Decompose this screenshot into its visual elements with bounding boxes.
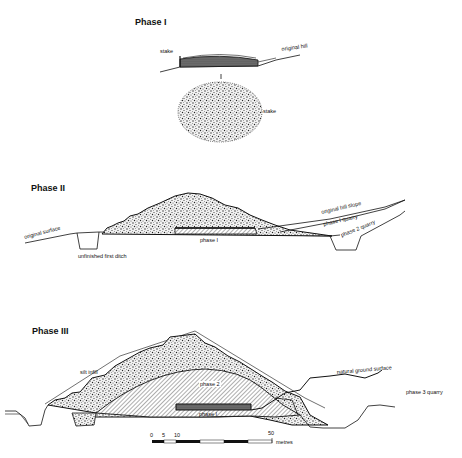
phase3-phase2-label: phase 2 (199, 381, 221, 387)
section-drawings (0, 0, 462, 458)
phase2-phase1-label: phase I (200, 237, 218, 243)
phase1-stake-label: stake (160, 48, 173, 54)
phase1-plan (178, 82, 262, 142)
scale-bar (152, 438, 272, 443)
phase1-title: Phase I (135, 17, 167, 27)
scale-unit-label: metres (276, 439, 293, 445)
phase3-title: Phase III (32, 326, 69, 336)
phase3-phase1-label: phase I (199, 411, 217, 417)
phase3-silt-infill-label: silt infill (80, 369, 98, 375)
phase1-section (160, 55, 300, 80)
scale-tick-5: 5 (162, 432, 165, 438)
scale-tick-50: 50 (268, 430, 274, 436)
scale-tick-10: 10 (174, 432, 180, 438)
archaeological-section-diagram: Phase I stake original hill stake Phase … (0, 0, 462, 458)
phase2-unfinished-ditch-label: unfinished first ditch (78, 253, 127, 259)
phase3-phase3-quarry-label: phase 3 quarry (406, 389, 443, 395)
phase1-plan-stake-label: stake (263, 108, 276, 114)
scale-tick-0: 0 (150, 432, 153, 438)
phase2-title: Phase II (31, 183, 65, 193)
